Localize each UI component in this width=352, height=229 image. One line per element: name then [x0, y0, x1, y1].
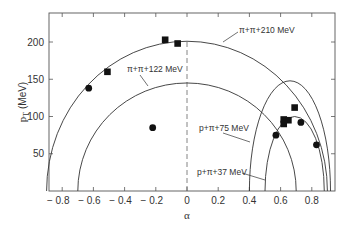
circle-marker	[273, 132, 280, 139]
arrow-210	[223, 32, 238, 42]
y-axis-title: pT (MeV)	[16, 82, 31, 122]
plot-frame	[49, 13, 335, 191]
x-tick-labels: − 0.8− 0.6− 0.4− 0.200.20.40.60.8	[47, 195, 319, 206]
circle-marker	[313, 141, 320, 148]
arrow-122	[140, 75, 148, 86]
armenteros-plot: 50100150200 − 0.8− 0.6− 0.4− 0.200.20.40…	[0, 0, 352, 229]
y-tick-label: 200	[27, 37, 44, 48]
x-tick-label: 0	[184, 195, 190, 206]
square-marker	[291, 104, 298, 111]
x-tick-label: − 0.2	[141, 195, 164, 206]
x-tick-label: 0.6	[274, 195, 288, 206]
y-tick-labels: 50100150200	[27, 37, 44, 160]
axis-ticks	[49, 13, 335, 191]
y-tick-label: 50	[33, 148, 45, 159]
square-marker	[162, 36, 169, 43]
y-tick-label: 150	[27, 74, 44, 85]
kinematic-curves	[47, 41, 331, 191]
circle-marker	[85, 85, 92, 92]
x-axis-title: α	[184, 209, 190, 221]
curve-label-122: π+π+122 MeV	[127, 64, 183, 74]
circle-marker	[297, 119, 304, 126]
square-marker	[104, 69, 111, 76]
curve-p-37-mev	[265, 117, 324, 192]
x-tick-label: − 0.6	[78, 195, 101, 206]
curve-label-75: p+π+75 MeV	[199, 123, 249, 133]
curve-label-210: π+π+210 MeV	[239, 25, 295, 35]
square-marker	[280, 121, 287, 128]
square-marker	[174, 40, 181, 47]
curve-label-37: p+π+37 MeV	[197, 167, 247, 177]
x-tick-label: 0.8	[305, 195, 319, 206]
x-tick-label: − 0.4	[109, 195, 132, 206]
x-tick-label: 0.2	[211, 195, 225, 206]
x-tick-label: 0.4	[242, 195, 256, 206]
arrow-75	[223, 133, 250, 142]
curve-p-75-mev	[249, 81, 330, 191]
x-tick-label: − 0.8	[47, 195, 70, 206]
circle-marker	[149, 124, 156, 131]
